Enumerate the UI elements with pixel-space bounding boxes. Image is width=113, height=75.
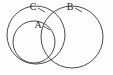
circle-c bbox=[7, 6, 65, 64]
venn-diagram-canvas: C A B bbox=[0, 0, 113, 75]
circle-b bbox=[41, 6, 103, 68]
label-a: A bbox=[34, 19, 42, 30]
leader-line-c bbox=[38, 8, 45, 12]
leader-line-b bbox=[75, 8, 82, 12]
venn-diagram-figure: C A B bbox=[0, 0, 113, 75]
label-b: B bbox=[67, 1, 74, 12]
label-c: C bbox=[30, 1, 37, 12]
